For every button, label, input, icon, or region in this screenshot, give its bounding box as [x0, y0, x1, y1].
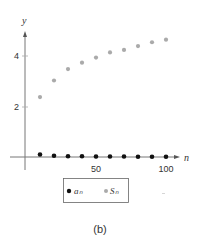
data-point [80, 61, 84, 65]
y-axis-arrow-icon [23, 31, 27, 37]
data-point [164, 38, 168, 42]
series-s-n [38, 38, 168, 100]
data-point [94, 154, 99, 159]
x-tick-label-100: 100 [158, 164, 173, 174]
data-point [38, 152, 43, 157]
y-tick-label-2: 2 [14, 102, 19, 112]
data-point [108, 154, 113, 159]
y-axis-label: y [21, 15, 27, 26]
data-point [150, 40, 154, 44]
data-point [164, 154, 169, 159]
legend-s-marker-icon [104, 189, 108, 193]
data-point [66, 154, 71, 159]
data-point [136, 44, 140, 48]
legend-a-marker-icon [67, 189, 71, 193]
data-point [66, 67, 70, 71]
data-point [52, 153, 57, 158]
data-point [94, 55, 98, 59]
series-a-n [38, 152, 169, 159]
data-point [122, 154, 127, 159]
legend-s-label: Sₙ [110, 186, 119, 196]
data-point [150, 154, 155, 159]
data-point [80, 154, 85, 159]
data-point [108, 50, 112, 54]
data-point [38, 95, 42, 99]
chart: 4 2 50 100 y n aₙ Sₙ (b) [0, 0, 199, 246]
x-axis-label: n [184, 152, 189, 163]
legend-a-label: aₙ [74, 186, 83, 196]
data-point [136, 154, 141, 159]
legend: aₙ Sₙ [64, 179, 129, 203]
data-point [52, 78, 56, 82]
y-tick-label-4: 4 [14, 51, 19, 61]
data-point [122, 48, 126, 52]
x-axis-arrow-icon [174, 155, 180, 159]
figure-caption: (b) [93, 223, 106, 235]
x-tick-label-50: 50 [91, 164, 101, 174]
